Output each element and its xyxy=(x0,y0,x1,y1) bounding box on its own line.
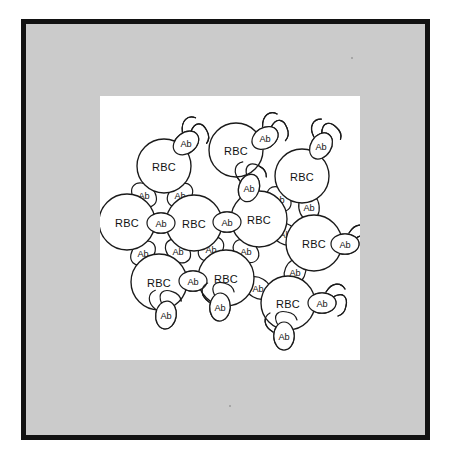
antibody-label: Ab xyxy=(316,299,327,309)
cell-label: RBC xyxy=(147,277,171,289)
cell-label: RBC xyxy=(182,218,206,230)
mat-speck xyxy=(351,57,353,59)
antibody-label: Ab xyxy=(278,332,289,342)
cell-label: RBC xyxy=(115,217,139,229)
cell-label: RBC xyxy=(290,171,314,183)
antibody-arm-icon xyxy=(326,284,345,292)
diagram-canvas: AbAbAbAbAbAbAbAbAbAbAbAbAbAbAbAbAbAbAbAb… xyxy=(100,96,360,360)
antibody-ab-22: Ab xyxy=(308,284,346,316)
antibody-label: Ab xyxy=(243,184,254,194)
antibody-label: Ab xyxy=(303,203,314,213)
antibody-arm-icon xyxy=(349,225,360,233)
antibody-ab-10: Ab xyxy=(213,212,241,232)
antibody-ab-9: Ab xyxy=(147,213,175,233)
antibody-label: Ab xyxy=(187,277,198,287)
cell-label: RBC xyxy=(224,145,248,157)
agglutination-diagram: AbAbAbAbAbAbAbAbAbAbAbAbAbAbAbAbAbAbAbAb… xyxy=(100,96,360,360)
antibody-label: Ab xyxy=(214,303,225,313)
antibody-arm-icon xyxy=(258,110,278,127)
cell-label: RBC xyxy=(276,298,300,310)
antibody-label: Ab xyxy=(252,284,263,294)
antibody-label: Ab xyxy=(315,142,326,152)
antibody-label: Ab xyxy=(155,219,166,229)
antibody-label: Ab xyxy=(180,139,191,149)
red-blood-cell-rbc-10: RBC xyxy=(261,276,315,330)
figure-mat: AbAbAbAbAbAbAbAbAbAbAbAbAbAbAbAbAbAbAbAb… xyxy=(26,24,425,435)
cell-label: RBC xyxy=(152,161,176,173)
figure-frame: AbAbAbAbAbAbAbAbAbAbAbAbAbAbAbAbAbAbAbAb… xyxy=(21,19,430,440)
antibody-label: Ab xyxy=(160,311,171,321)
cell-label: RBC xyxy=(247,214,271,226)
antibody-arm-icon xyxy=(258,110,278,127)
antibody-label: Ab xyxy=(259,134,270,144)
mat-speck xyxy=(229,405,231,407)
antibody-label: Ab xyxy=(339,240,350,250)
cell-label: RBC xyxy=(302,238,326,250)
figure-root: AbAbAbAbAbAbAbAbAbAbAbAbAbAbAbAbAbAbAbAb… xyxy=(0,0,449,464)
antibody-arm-icon xyxy=(178,114,198,132)
antibody-arm-icon xyxy=(178,114,198,132)
antibody-label: Ab xyxy=(221,218,232,228)
